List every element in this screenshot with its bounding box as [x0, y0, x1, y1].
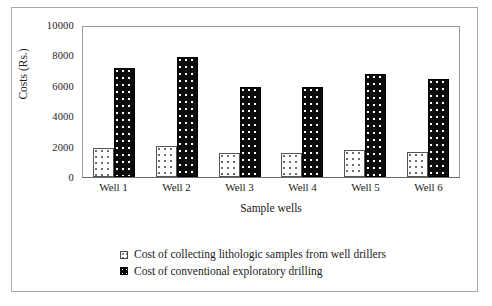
bar: [407, 152, 428, 177]
bar-group: [83, 27, 146, 177]
bar-group: [396, 27, 459, 177]
y-tick-label: 0: [69, 173, 74, 184]
bar: [177, 57, 198, 177]
legend-entry-label: Cost of collecting lithologic samples fr…: [134, 249, 386, 261]
bar: [365, 74, 386, 178]
bar: [302, 87, 323, 177]
bar-groups: [83, 27, 459, 177]
bar-chart-figure: Costs (Rs.) 10000 8000 6000 4000 2000 0 …: [0, 0, 492, 306]
y-axis-title: Costs (Rs.): [17, 19, 29, 129]
x-tick-label: Well 3: [208, 181, 271, 193]
chart-legend: Cost of collecting lithologic samples fr…: [120, 249, 386, 277]
legend-entry: Cost of collecting lithologic samples fr…: [120, 249, 386, 261]
bar: [281, 153, 302, 177]
bar: [428, 79, 449, 177]
y-tick-label: 2000: [52, 142, 74, 153]
x-tick-label: Well 1: [82, 181, 145, 193]
plot-area-wrapper: [82, 26, 460, 178]
x-axis-title: Sample wells: [82, 202, 460, 214]
legend-swatch-dark-dotted-icon: [120, 267, 128, 275]
bar: [93, 148, 114, 177]
x-tick-label: Well 2: [145, 181, 208, 193]
bar: [219, 153, 240, 177]
x-tick-label: Well 6: [397, 181, 460, 193]
y-tick-label: 8000: [52, 51, 74, 62]
legend-entry-label: Cost of conventional exploratory drillin…: [134, 266, 322, 278]
bar-group: [271, 27, 334, 177]
bar-group: [334, 27, 397, 177]
legend-swatch-light-dotted-icon: [120, 251, 128, 259]
bar-group: [146, 27, 209, 177]
y-tick-label: 10000: [47, 21, 74, 32]
x-axis-tick-labels: Well 1 Well 2 Well 3 Well 4 Well 5 Well …: [82, 181, 460, 193]
y-tick-label: 4000: [52, 112, 74, 123]
bar-group: [208, 27, 271, 177]
bar: [240, 87, 261, 177]
bar: [156, 146, 177, 178]
x-tick-label: Well 4: [271, 181, 334, 193]
bar: [344, 150, 365, 177]
legend-entry: Cost of conventional exploratory drillin…: [120, 266, 386, 278]
y-tick-label: 6000: [52, 82, 74, 93]
x-tick-label: Well 5: [334, 181, 397, 193]
y-axis-tick-labels: 10000 8000 6000 4000 2000 0: [34, 26, 78, 178]
bar: [114, 68, 135, 178]
